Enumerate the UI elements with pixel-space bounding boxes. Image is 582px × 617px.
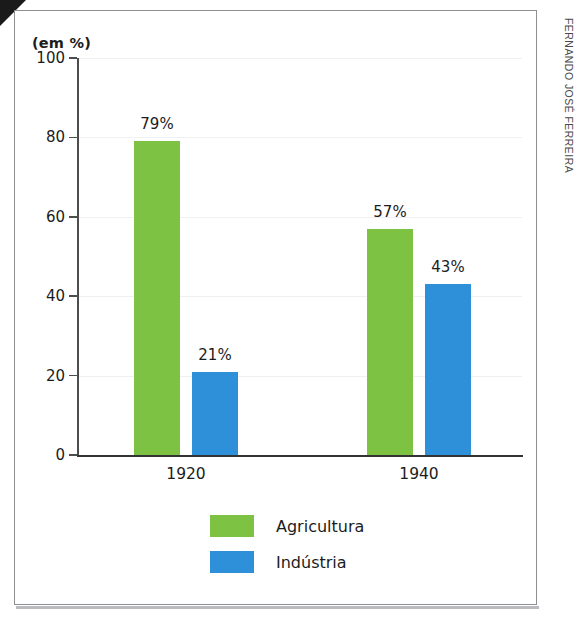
credit-label: FERNANDO JOSÉ FERREIRA [563, 18, 575, 173]
frame-shadow [16, 606, 539, 609]
y-axis-line [77, 58, 79, 456]
y-tick-label: 0 [14, 446, 65, 464]
bar-value-label: 57% [353, 203, 427, 221]
green-swatch [210, 515, 254, 537]
chart-legend: AgriculturaIndústria [210, 510, 364, 582]
bar-chart: (em %) 020406080100 79%21%57%43% 1920194… [14, 10, 537, 605]
gridline [77, 137, 522, 138]
legend-item-agricultura: Agricultura [210, 510, 364, 542]
gridline [77, 58, 522, 59]
y-tick-label: 60 [14, 208, 65, 226]
y-tick-mark [69, 57, 77, 59]
bar-indústria-1940 [425, 284, 471, 455]
legend-label: Agricultura [276, 517, 364, 536]
x-category-label-1920: 1920 [136, 465, 236, 483]
bar-value-label: 21% [178, 346, 252, 364]
bar-value-label: 79% [120, 115, 194, 133]
x-category-label-1940: 1940 [369, 465, 469, 483]
chart-page: FERNANDO JOSÉ FERREIRA (em %) 0204060801… [0, 0, 582, 617]
y-tick-label: 20 [14, 367, 65, 385]
y-tick-mark [69, 216, 77, 218]
y-tick-mark [69, 375, 77, 377]
credit-text: FERNANDO JOSÉ FERREIRA [560, 18, 578, 278]
y-tick-mark [69, 454, 77, 456]
blue-swatch [210, 551, 254, 573]
y-tick-label: 40 [14, 287, 65, 305]
y-tick-label: 100 [14, 49, 65, 67]
y-tick-mark [69, 137, 77, 139]
y-tick-label: 80 [14, 128, 65, 146]
bar-agricultura-1920 [134, 141, 180, 455]
bar-agricultura-1940 [367, 229, 413, 455]
bar-indústria-1920 [192, 372, 238, 455]
legend-label: Indústria [276, 553, 347, 572]
x-axis-line [77, 455, 523, 457]
bar-value-label: 43% [411, 258, 485, 276]
y-tick-mark [69, 295, 77, 297]
legend-item-indústria: Indústria [210, 546, 364, 578]
